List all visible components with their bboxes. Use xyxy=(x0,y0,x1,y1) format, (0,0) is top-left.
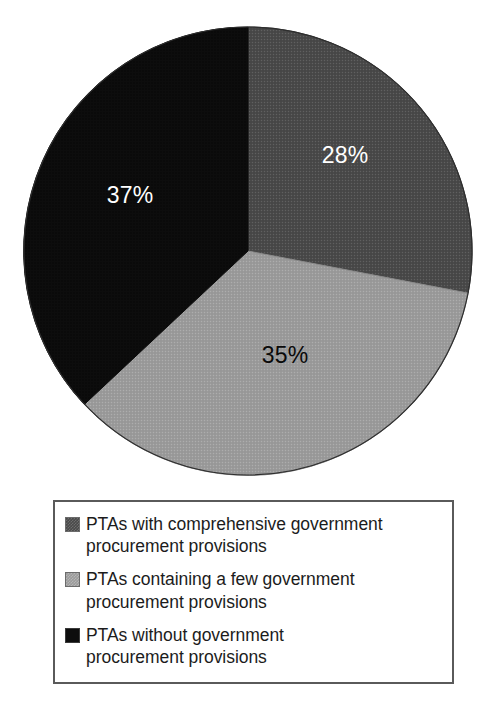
legend-swatch-mid-gray-icon xyxy=(65,572,80,587)
legend-label-few-provisions: PTAs containing a few government procure… xyxy=(86,568,355,612)
legend-item-comprehensive[interactable]: PTAs with comprehensive government procu… xyxy=(65,513,442,557)
pie-label-28-percent: 28% xyxy=(322,142,369,168)
legend-item-few-provisions[interactable]: PTAs containing a few government procure… xyxy=(65,568,442,612)
legend-item-without-provisions[interactable]: PTAs without government procurement prov… xyxy=(65,624,442,668)
legend-swatch-dark-gray-icon xyxy=(65,517,80,532)
pie-label-35-percent: 35% xyxy=(262,342,309,368)
legend-label-comprehensive: PTAs with comprehensive government procu… xyxy=(86,513,383,557)
pie-chart-svg: 28% 35% 37% xyxy=(0,0,488,488)
pie-label-37-percent: 37% xyxy=(107,182,154,208)
pie-chart: 28% 35% 37% xyxy=(0,0,488,488)
legend-swatch-black-icon xyxy=(65,628,80,643)
chart-legend: PTAs with comprehensive government procu… xyxy=(53,500,454,684)
legend-label-without-provisions: PTAs without government procurement prov… xyxy=(86,624,284,668)
pie-chart-figure: 28% 35% 37% PTAs with comprehensive gove… xyxy=(0,0,488,705)
